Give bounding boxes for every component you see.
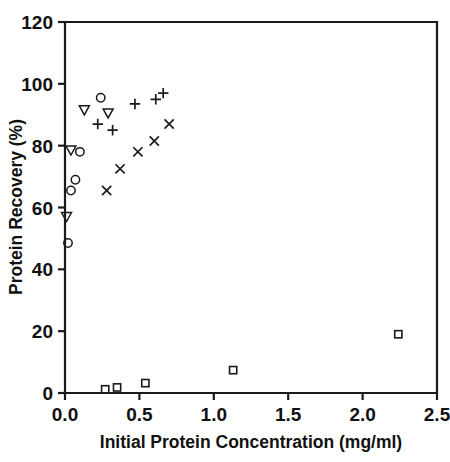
data-point-square (113, 384, 120, 391)
data-point-circle (67, 186, 75, 194)
data-point-plus (107, 125, 117, 135)
series-circle-series (64, 94, 105, 248)
data-point-triangle-down (79, 106, 89, 115)
x-axis-title: Initial Protein Concentration (mg/ml) (100, 432, 402, 452)
data-point-x (115, 164, 124, 173)
x-tick-label: 0.0 (52, 404, 78, 425)
scatter-plot: 0.00.51.01.52.02.5 020406080100120 Initi… (0, 0, 450, 462)
data-markers-group (61, 88, 401, 393)
series-triangle-series (61, 106, 113, 222)
x-tick-label: 1.5 (275, 404, 302, 425)
data-point-square (102, 386, 109, 393)
y-axis-title: Protein Recovery (%) (6, 119, 26, 295)
y-tick-label: 40 (32, 259, 53, 280)
data-point-square (230, 367, 237, 374)
data-point-circle (71, 175, 79, 183)
data-point-triangle-down (103, 109, 113, 118)
y-axis-tick-labels: 020406080100120 (21, 12, 53, 404)
data-point-plus (93, 119, 103, 129)
x-tick-label: 2.5 (424, 404, 450, 425)
data-point-plus (158, 88, 168, 98)
axis-frame (65, 22, 437, 393)
data-point-x (165, 119, 174, 128)
y-tick-label: 60 (32, 198, 53, 219)
y-tick-label: 120 (21, 12, 53, 33)
data-point-x (102, 186, 111, 195)
plot-axes (65, 22, 437, 393)
series-square-series (102, 331, 402, 393)
data-point-circle (76, 148, 84, 156)
data-point-triangle-down (61, 213, 71, 222)
x-tick-label: 2.0 (349, 404, 375, 425)
y-tick-label: 0 (42, 383, 53, 404)
y-tick-label: 20 (32, 321, 53, 342)
data-point-x (133, 147, 142, 156)
data-point-square (142, 380, 149, 387)
x-tick-label: 0.5 (126, 404, 153, 425)
y-tick-label: 100 (21, 74, 53, 95)
data-point-square (395, 331, 402, 338)
x-axis-tick-labels: 0.00.51.01.52.02.5 (52, 404, 450, 425)
x-tick-label: 1.0 (201, 404, 227, 425)
chart-figure: 0.00.51.01.52.02.5 020406080100120 Initi… (0, 0, 450, 462)
data-point-circle (97, 94, 105, 102)
data-point-plus (130, 99, 140, 109)
data-point-x (150, 136, 159, 145)
y-tick-label: 80 (32, 136, 53, 157)
data-point-plus (151, 94, 161, 104)
data-point-triangle-down (66, 146, 76, 155)
